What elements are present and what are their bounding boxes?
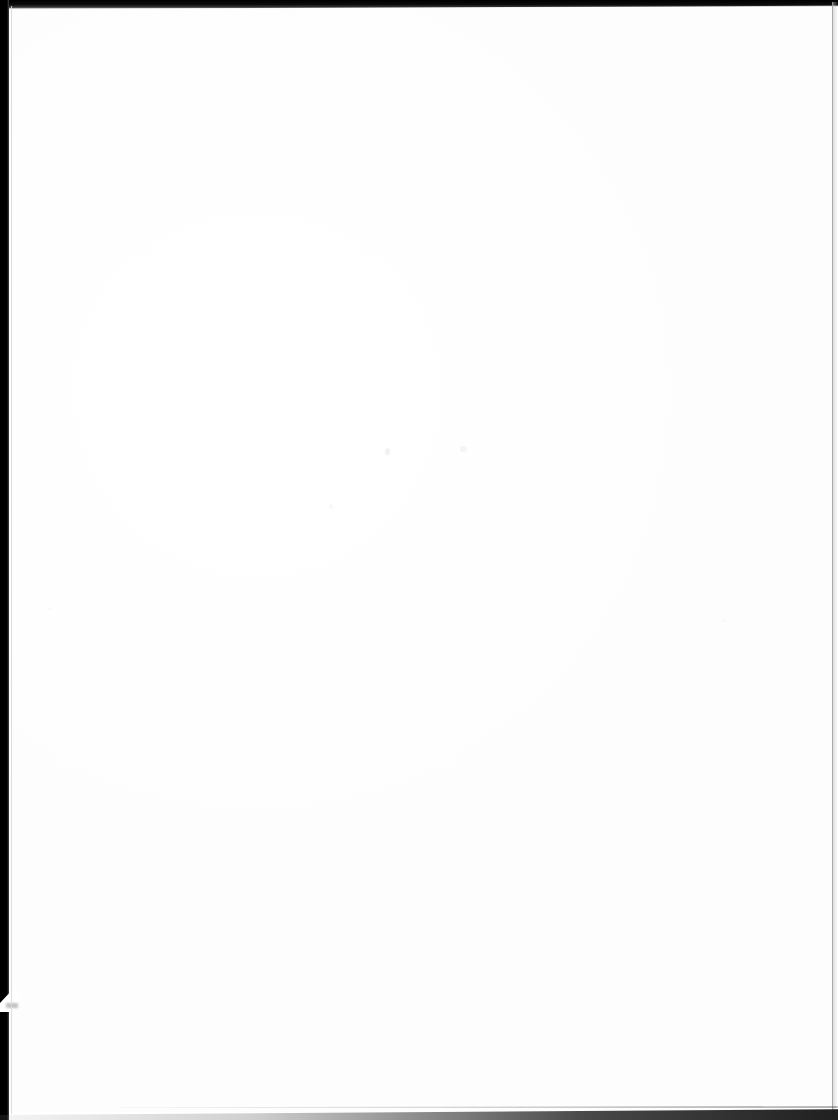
page-speck	[48, 607, 51, 610]
left-page-hairline	[11, 6, 12, 1114]
page-speck	[722, 619, 725, 622]
torn-corner-notch-shadow	[6, 1003, 18, 1008]
page-content-area	[14, 12, 830, 1104]
page-speck	[460, 446, 467, 452]
page-speck	[330, 504, 332, 509]
left-scan-edge	[0, 0, 9, 1120]
scanned-page	[0, 0, 838, 1120]
right-page-rule-shadow	[833, 2, 838, 1114]
page-speck	[385, 448, 390, 455]
